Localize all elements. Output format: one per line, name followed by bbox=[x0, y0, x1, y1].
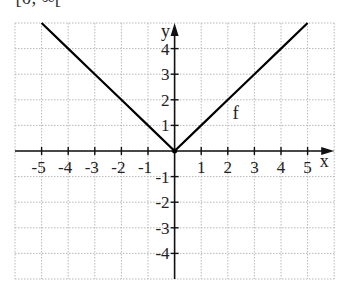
x-tick-label: 3 bbox=[250, 158, 259, 177]
vertex-point bbox=[172, 149, 177, 154]
axis-labels: xy bbox=[161, 21, 329, 171]
x-tick-label: -5 bbox=[32, 158, 46, 177]
x-axis-label: x bbox=[320, 151, 329, 171]
y-tick-label: -3 bbox=[155, 219, 169, 238]
x-tick-label: -3 bbox=[85, 158, 99, 177]
y-tick-label: 1 bbox=[161, 116, 170, 135]
function-plot: -5-4-3-2-112345-4-3-2-11234 f xy bbox=[0, 0, 343, 290]
x-tick-label: 5 bbox=[303, 158, 312, 177]
x-tick-label: -4 bbox=[58, 158, 73, 177]
y-tick-label: 3 bbox=[161, 65, 170, 84]
x-tick-label: -2 bbox=[111, 158, 125, 177]
y-tick-label: -1 bbox=[155, 168, 169, 187]
y-axis-arrow-icon bbox=[171, 23, 179, 36]
y-tick-label: 4 bbox=[161, 40, 170, 59]
y-axis-label: y bbox=[161, 21, 170, 41]
x-tick-label: -1 bbox=[138, 158, 152, 177]
function-label: f bbox=[233, 102, 240, 123]
y-tick-label: -2 bbox=[155, 193, 169, 212]
y-tick-label: -4 bbox=[155, 244, 170, 263]
x-tick-label: 4 bbox=[277, 158, 286, 177]
y-tick-label: 2 bbox=[161, 91, 170, 110]
x-tick-label: 2 bbox=[224, 158, 233, 177]
x-tick-label: 1 bbox=[197, 158, 206, 177]
